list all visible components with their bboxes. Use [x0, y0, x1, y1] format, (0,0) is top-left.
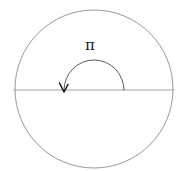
circle-diagram-svg — [0, 0, 186, 171]
pi-label: π — [85, 38, 95, 53]
figure-canvas: π — [0, 0, 186, 171]
figure-background — [0, 0, 186, 171]
